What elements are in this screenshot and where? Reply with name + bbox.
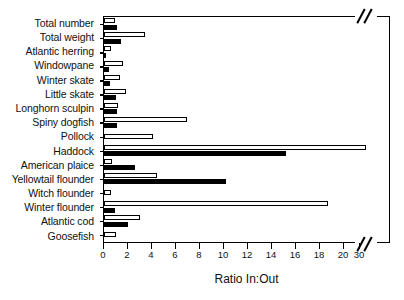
bar-open: [104, 75, 120, 80]
bar-open: [104, 232, 116, 237]
bar-open: [104, 173, 157, 178]
bar-row: [104, 130, 389, 144]
y-axis-label: Atlantic herring: [0, 44, 97, 58]
y-axis-label: Total number: [0, 16, 97, 30]
y-axis-tick: [100, 66, 104, 67]
y-axis-label: Goosefish: [0, 229, 97, 243]
y-axis-tick: [100, 38, 104, 39]
y-axis-label: Windowpane: [0, 59, 97, 73]
x-axis-tick-label: 18: [314, 249, 325, 261]
bar-open: [104, 61, 123, 66]
bar-open: [104, 18, 115, 23]
bar-filled: [104, 81, 110, 86]
x-axis-tick-label: 8: [196, 249, 201, 261]
bar-open: [104, 89, 126, 94]
bar-row: [104, 172, 389, 186]
bar-row: [104, 45, 389, 59]
x-axis-title: Ratio In:Out: [103, 272, 390, 286]
bar-filled: [104, 151, 286, 156]
bar-open: [104, 46, 111, 51]
bar-row: [104, 214, 389, 228]
x-axis-tick-label: 20: [338, 249, 349, 261]
bar-row: [104, 144, 389, 158]
plot-area: [103, 16, 390, 243]
bar-open: [104, 190, 111, 195]
y-axis-tick: [100, 179, 104, 180]
x-axis-tick-label: 30: [354, 249, 365, 261]
x-axis-tick-label: 6: [172, 249, 177, 261]
bar-row: [104, 87, 389, 101]
bar-open: [104, 215, 140, 220]
y-axis-tick: [100, 235, 104, 236]
bar-filled: [104, 208, 115, 213]
x-axis-tick-label: 0: [100, 249, 105, 261]
y-axis-tick: [100, 80, 104, 81]
bar-filled: [104, 179, 226, 184]
bar-open: [104, 159, 112, 164]
bar-rows: [104, 17, 389, 242]
bar-row: [104, 73, 389, 87]
y-axis-label: Winter flounder: [0, 200, 97, 214]
bar-row: [104, 59, 389, 73]
y-axis-tick: [100, 108, 104, 109]
bar-filled: [104, 222, 128, 227]
x-axis-tick-label: 16: [290, 249, 301, 261]
y-axis-label: Longhorn sculpin: [0, 101, 97, 115]
bar-open: [104, 117, 187, 122]
bar-row: [104, 158, 389, 172]
bar-filled: [104, 39, 121, 44]
bar-row: [104, 200, 389, 214]
bar-open: [104, 134, 153, 139]
y-axis-category-labels: Total numberTotal weightAtlantic herring…: [0, 16, 97, 243]
x-axis-tick-labels: 0246810121416182030: [0, 249, 404, 263]
x-axis-tick-label: 2: [124, 249, 129, 261]
bar-open: [104, 201, 328, 206]
bar-open: [104, 145, 366, 150]
bar-filled: [104, 165, 135, 170]
bar-filled: [104, 123, 117, 128]
y-axis-label: Winter skate: [0, 73, 97, 87]
y-axis-label: Little skate: [0, 87, 97, 101]
y-axis-tick: [100, 221, 104, 222]
bar-row: [104, 101, 389, 115]
y-axis-tick: [100, 94, 104, 95]
bar-row: [104, 228, 389, 242]
ratio-in-out-bar-chart: Total numberTotal weightAtlantic herring…: [0, 0, 404, 300]
y-axis-tick: [100, 207, 104, 208]
x-axis-tick-label: 12: [242, 249, 253, 261]
x-axis-tick-label: 4: [148, 249, 153, 261]
bar-filled: [104, 67, 109, 72]
y-axis-label: American plaice: [0, 158, 97, 172]
bar-row: [104, 115, 389, 129]
axis-break-mark-top: [355, 9, 377, 23]
y-axis-label: Atlantic cod: [0, 215, 97, 229]
y-axis-label: Total weight: [0, 30, 97, 44]
y-axis-tick: [100, 151, 104, 152]
bar-filled: [104, 53, 106, 58]
x-axis-tick-label: 14: [266, 249, 277, 261]
y-axis-label: Pollock: [0, 130, 97, 144]
y-axis-tick: [100, 24, 104, 25]
y-axis-tick: [100, 137, 104, 138]
y-axis-label: Haddock: [0, 144, 97, 158]
y-axis-label: Spiny dogfish: [0, 115, 97, 129]
bar-filled: [104, 95, 116, 100]
y-axis-tick: [100, 52, 104, 53]
x-axis-tick-label: 10: [218, 249, 229, 261]
y-axis-tick: [100, 165, 104, 166]
y-axis-tick: [100, 122, 104, 123]
bar-row: [104, 186, 389, 200]
bar-filled: [104, 25, 117, 30]
y-axis-label: Yellowtail flounder: [0, 172, 97, 186]
bar-open: [104, 32, 145, 37]
bar-open: [104, 103, 118, 108]
y-axis-label: Witch flounder: [0, 186, 97, 200]
bar-filled: [104, 109, 117, 114]
bar-row: [104, 31, 389, 45]
y-axis-tick: [100, 193, 104, 194]
bar-row: [104, 17, 389, 31]
